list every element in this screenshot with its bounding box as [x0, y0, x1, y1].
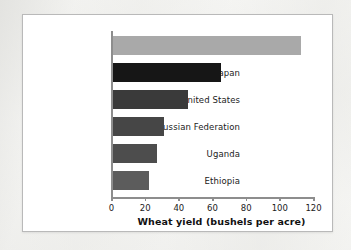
x-axis-title: Wheat yield (bushels per acre) — [111, 216, 332, 227]
bar-russian-federation — [112, 117, 164, 136]
x-tick-label-120: 120 — [305, 203, 321, 213]
x-tick-80 — [246, 197, 248, 201]
x-tick-label-40: 40 — [173, 203, 184, 213]
category-label-russian-federation: Russian Federation — [158, 123, 241, 132]
x-tick-label-60: 60 — [207, 203, 218, 213]
category-label-united-states: United States — [181, 96, 240, 105]
x-tick-100 — [279, 197, 281, 201]
bar-france — [112, 36, 301, 55]
category-label-uganda: Uganda — [207, 150, 240, 159]
x-tick-40 — [178, 197, 180, 201]
x-tick-label-0: 0 — [109, 203, 114, 213]
category-label-ethiopia: Ethiopia — [205, 177, 240, 186]
x-tick-label-80: 80 — [241, 203, 252, 213]
y-axis-line — [111, 31, 113, 197]
bar-united-states — [112, 90, 188, 109]
x-tick-0 — [111, 197, 113, 201]
bar-uganda — [112, 144, 157, 163]
bar-japan — [112, 63, 221, 82]
x-tick-60 — [212, 197, 214, 201]
chart-figure-frame: France Japan United States Russian Feder… — [22, 14, 333, 232]
x-tick-20 — [145, 197, 147, 201]
x-tick-label-20: 20 — [140, 203, 151, 213]
plot-area: France Japan United States Russian Feder… — [23, 15, 332, 231]
x-tick-120 — [313, 197, 315, 201]
x-tick-label-100: 100 — [272, 203, 288, 213]
bar-ethiopia — [112, 171, 149, 190]
